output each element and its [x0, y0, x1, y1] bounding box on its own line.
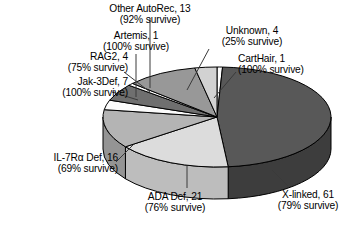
slice-label-name-unknown: Unknown, 4 — [204, 25, 300, 36]
slice-label-name-x-linked: X-linked, 61 — [256, 189, 360, 200]
slice-label-name-jak-3def: Jak-3Def, 7 — [8, 76, 128, 87]
slice-label-carthair: CartHair, 1 (100% survive) — [238, 53, 348, 76]
slice-label-name-artemis: Artemis, 1 — [78, 30, 194, 41]
slice-label-jak-3def: Jak-3Def, 7 (100% survive) — [8, 76, 128, 99]
slice-label-survival-carthair: (100% survive) — [238, 64, 348, 75]
slice-label-artemis: Artemis, 1 (100% survive) — [78, 30, 194, 53]
slice-label-survival-il7ra-def: (69% survive) — [2, 163, 118, 174]
slice-label-ada-def: ADA Def, 21 (76% survive) — [120, 191, 230, 214]
slice-label-name-other-autorec: Other AutoRec, 13 — [86, 3, 214, 14]
slice-label-survival-unknown: (25% survive) — [204, 36, 300, 47]
slice-label-survival-rag2: (75% survive) — [16, 62, 128, 73]
slice-label-survival-x-linked: (79% survive) — [256, 200, 360, 211]
chart-canvas: Other AutoRec, 13 (92% survive) Artemis,… — [0, 0, 362, 228]
slice-label-il7ra-def: IL-7Rα Def, 16 (69% survive) — [2, 152, 118, 175]
slice-label-name-ada-def: ADA Def, 21 — [120, 191, 230, 202]
slice-label-name-il7ra-def: IL-7Rα Def, 16 — [2, 152, 118, 163]
slice-label-x-linked: X-linked, 61 (79% survive) — [256, 189, 360, 212]
slice-label-survival-jak-3def: (100% survive) — [8, 87, 128, 98]
slice-label-name-rag2: RAG2, 4 — [16, 51, 128, 62]
slice-label-survival-other-autorec: (92% survive) — [86, 14, 214, 25]
slice-label-unknown: Unknown, 4 (25% survive) — [204, 25, 300, 48]
slice-label-name-carthair: CartHair, 1 — [238, 53, 348, 64]
slice-label-rag2: RAG2, 4 (75% survive) — [16, 51, 128, 74]
slice-label-other-autorec: Other AutoRec, 13 (92% survive) — [86, 3, 214, 26]
slice-label-survival-ada-def: (76% survive) — [120, 202, 230, 213]
